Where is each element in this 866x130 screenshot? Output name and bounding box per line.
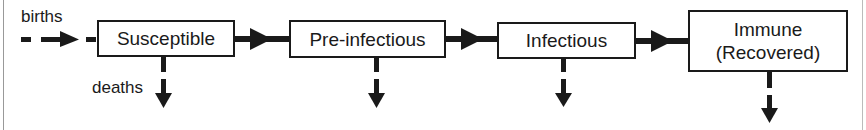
deaths-arrow-preinfectious [368,57,385,108]
births-arrow [21,31,96,47]
deaths-label: deaths [92,78,143,98]
flow-arrow-susceptible-to-preinfectious [234,28,289,50]
compartment-label: Pre-infectious [309,28,425,51]
compartment-susceptible: Susceptible [97,20,235,57]
compartment-label-line2: (Recovered) [716,41,821,64]
births-label: births [21,7,63,27]
flow-arrow-infectious-to-immune [635,30,688,52]
compartment-immune: Immune (Recovered) [688,10,848,72]
compartment-infectious: Infectious [497,22,636,59]
compartment-label: Infectious [526,29,607,52]
deaths-arrow-susceptible [155,56,172,108]
compartment-label: Susceptible [117,27,215,50]
deaths-arrow-immune [761,72,778,123]
flow-arrow-preinfectious-to-infectious [445,28,497,50]
compartment-pre-infectious: Pre-infectious [289,20,446,58]
compartment-label-line1: Immune [734,18,803,41]
deaths-arrow-infectious [555,58,572,107]
